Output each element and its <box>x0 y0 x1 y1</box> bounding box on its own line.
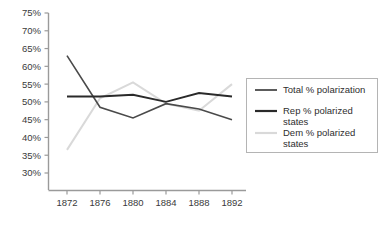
chart-legend: Total % polarizationRep % polarizedstate… <box>247 79 378 153</box>
y-tick-label: 35% <box>22 150 42 161</box>
x-tick-label: 1880 <box>122 197 143 208</box>
y-tick-label: 45% <box>22 114 42 125</box>
legend-label: Dem % polarized <box>283 127 355 138</box>
y-tick-label: 40% <box>22 132 42 143</box>
y-tick-label: 50% <box>22 96 42 107</box>
x-tick-label: 1888 <box>188 197 209 208</box>
legend-label: Total % polarization <box>283 84 365 95</box>
y-tick-label: 30% <box>22 167 42 178</box>
y-tick-label: 65% <box>22 43 42 54</box>
y-tick-label: 70% <box>22 25 42 36</box>
legend-label: Rep % polarized <box>283 105 353 116</box>
x-tick-label: 1872 <box>56 197 77 208</box>
y-tick-label: 55% <box>22 79 42 90</box>
y-tick-label: 75% <box>22 7 42 18</box>
legend-label-continued: states <box>283 138 309 149</box>
chart-canvas: 75%70%65%60%55%50%45%40%35%30% 187218761… <box>0 0 381 232</box>
legend-label-continued: states <box>283 116 309 127</box>
x-tick-label: 1884 <box>155 197 176 208</box>
y-tick-label: 60% <box>22 61 42 72</box>
x-tick-label: 1892 <box>221 197 242 208</box>
line-chart: 75%70%65%60%55%50%45%40%35%30% 187218761… <box>0 0 381 232</box>
x-tick-label: 1876 <box>89 197 110 208</box>
